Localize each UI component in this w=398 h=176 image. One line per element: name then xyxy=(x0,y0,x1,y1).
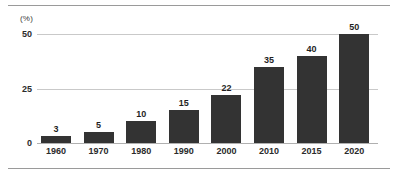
bar-value-2010: 35 xyxy=(250,55,288,65)
y-tick-label-25: 25 xyxy=(6,84,32,94)
bar-group-1960[interactable]: 3 xyxy=(37,34,75,143)
bar-1970[interactable] xyxy=(84,132,114,143)
bar-1980[interactable] xyxy=(126,121,156,143)
bar-group-2020[interactable]: 50 xyxy=(335,34,373,143)
bar-group-1990[interactable]: 15 xyxy=(165,34,203,143)
x-tick-label-2010: 2010 xyxy=(250,146,288,156)
y-axis-unit-label: (%) xyxy=(20,14,33,23)
chart-figure: (%) 50 25 0 3 5 10 15 22 xyxy=(0,0,398,176)
bar-2000[interactable] xyxy=(211,95,241,143)
bar-value-1990: 15 xyxy=(165,98,203,108)
y-axis-tick-labels: 50 25 0 xyxy=(0,34,32,143)
bar-2020[interactable] xyxy=(339,34,369,143)
bar-group-2010[interactable]: 35 xyxy=(250,34,288,143)
x-tick-label-1960: 1960 xyxy=(37,146,75,156)
bar-2010[interactable] xyxy=(254,67,284,143)
x-tick-label-2000: 2000 xyxy=(207,146,245,156)
bar-value-1960: 3 xyxy=(37,124,75,134)
bar-value-1980: 10 xyxy=(122,109,160,119)
x-axis-tick-labels: 1960 1970 1980 1990 2000 2010 2015 2020 xyxy=(37,146,378,160)
bar-group-2015[interactable]: 40 xyxy=(293,34,331,143)
x-tick-label-1990: 1990 xyxy=(165,146,203,156)
x-tick-label-1980: 1980 xyxy=(122,146,160,156)
gridline-0-baseline xyxy=(37,143,378,144)
bar-group-2000[interactable]: 22 xyxy=(207,34,245,143)
x-tick-label-2020: 2020 xyxy=(335,146,373,156)
bottom-divider-rule xyxy=(8,168,390,169)
y-tick-label-0: 0 xyxy=(6,138,32,148)
bar-series: 3 5 10 15 22 35 40 50 xyxy=(37,34,378,143)
bar-group-1970[interactable]: 5 xyxy=(80,34,118,143)
x-tick-label-2015: 2015 xyxy=(293,146,331,156)
bar-1990[interactable] xyxy=(169,110,199,143)
bar-group-1980[interactable]: 10 xyxy=(122,34,160,143)
bar-1960[interactable] xyxy=(41,136,71,143)
bar-2015[interactable] xyxy=(297,56,327,143)
x-tick-label-1970: 1970 xyxy=(80,146,118,156)
bar-value-2000: 22 xyxy=(207,83,245,93)
bar-value-2015: 40 xyxy=(293,44,331,54)
bar-value-1970: 5 xyxy=(80,120,118,130)
bar-value-2020: 50 xyxy=(335,22,373,32)
y-tick-label-50: 50 xyxy=(6,29,32,39)
top-divider-rule xyxy=(8,5,390,6)
